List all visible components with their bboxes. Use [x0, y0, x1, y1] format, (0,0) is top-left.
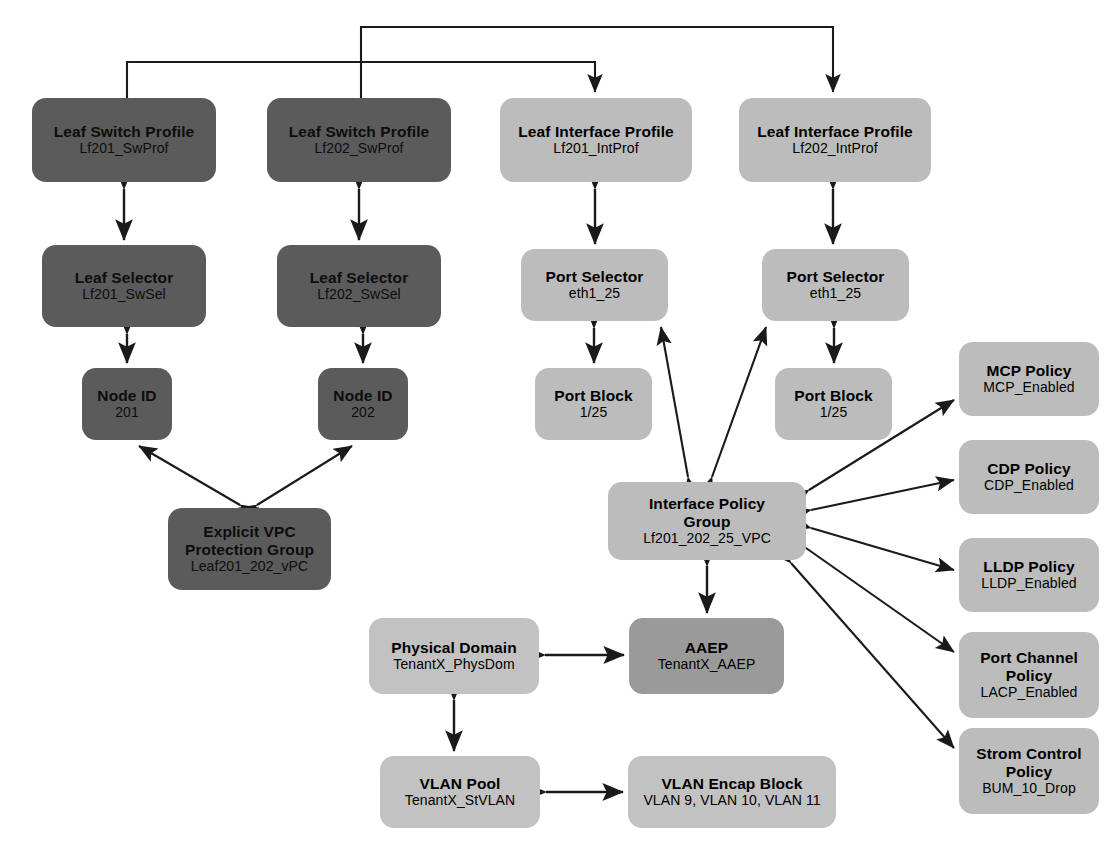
node-subtitle: Lf201_SwProf	[79, 141, 168, 157]
node-cdp_policy[interactable]: CDP PolicyCDP_Enabled	[959, 440, 1099, 514]
node-title: Node ID	[333, 387, 392, 404]
node-subtitle: CDP_Enabled	[984, 478, 1074, 494]
diagram-canvas: Leaf Switch ProfileLf201_SwProfLeaf Swit…	[0, 0, 1119, 856]
node-subtitle: TenantX_PhysDom	[393, 657, 514, 673]
node-subtitle: Lf201_IntProf	[553, 141, 638, 157]
node-subtitle: 1/25	[820, 405, 848, 421]
node-title: LLDP Policy	[983, 558, 1074, 575]
node-subtitle: BUM_10_Drop	[982, 781, 1076, 797]
node-subtitle: 202	[351, 405, 375, 421]
node-subtitle: 201	[115, 405, 139, 421]
node-subtitle: Lf202_IntProf	[792, 141, 877, 157]
node-title: MCP Policy	[986, 362, 1071, 379]
node-lf201_swprof[interactable]: Leaf Switch ProfileLf201_SwProf	[32, 98, 216, 182]
node-port_sel_2[interactable]: Port Selectoreth1_25	[762, 249, 909, 321]
node-subtitle: LACP_Enabled	[981, 685, 1078, 701]
node-title: Leaf Interface Profile	[518, 123, 674, 140]
node-title: VLAN Pool	[420, 775, 501, 792]
node-port_sel_1[interactable]: Port Selectoreth1_25	[521, 249, 668, 321]
node-title: AAEP	[685, 639, 728, 656]
node-node_id_201[interactable]: Node ID201	[82, 368, 172, 440]
node-port_block_1[interactable]: Port Block1/25	[535, 368, 652, 440]
node-subtitle: TenantX_AAEP	[658, 657, 756, 673]
node-lldp_policy[interactable]: LLDP PolicyLLDP_Enabled	[959, 538, 1099, 612]
node-subtitle: Leaf201_202_vPC	[191, 559, 309, 575]
node-title: Leaf Switch Profile	[289, 123, 430, 140]
node-subtitle: Lf202_SwProf	[314, 141, 403, 157]
node-storm_policy[interactable]: Strom ControlPolicyBUM_10_Drop	[959, 728, 1099, 814]
node-title: Port Block	[554, 387, 633, 404]
node-title: Port Selector	[787, 268, 885, 285]
node-vlan_encap[interactable]: VLAN Encap BlockVLAN 9, VLAN 10, VLAN 11	[628, 756, 836, 828]
node-title: Explicit VPCProtection Group	[185, 523, 314, 558]
node-title: Interface PolicyGroup	[649, 495, 765, 530]
node-ipg[interactable]: Interface PolicyGroupLf201_202_25_VPC	[608, 482, 806, 560]
node-title: Node ID	[97, 387, 156, 404]
ipg-to-port-selectors	[661, 327, 766, 477]
node-lf202_swprof[interactable]: Leaf Switch ProfileLf202_SwProf	[267, 98, 451, 182]
node-port_block_2[interactable]: Port Block1/25	[775, 368, 892, 440]
node-title: Leaf Switch Profile	[54, 123, 195, 140]
node-title: Leaf Selector	[310, 269, 409, 286]
node-lf202_intprof[interactable]: Leaf Interface ProfileLf202_IntProf	[739, 98, 931, 182]
node-pc_policy[interactable]: Port ChannelPolicyLACP_Enabled	[959, 632, 1099, 718]
node-lf201_swsel[interactable]: Leaf SelectorLf201_SwSel	[42, 245, 206, 327]
node-subtitle: MCP_Enabled	[983, 380, 1074, 396]
node-vpc_group[interactable]: Explicit VPCProtection GroupLeaf201_202_…	[168, 508, 331, 590]
node-node_id_202[interactable]: Node ID202	[318, 368, 408, 440]
node-title: Port Selector	[546, 268, 644, 285]
node-vlan_pool[interactable]: VLAN PoolTenantX_StVLAN	[380, 756, 540, 828]
node-phys_dom[interactable]: Physical DomainTenantX_PhysDom	[369, 618, 539, 694]
node-subtitle: TenantX_StVLAN	[405, 793, 515, 809]
node-title: Port ChannelPolicy	[980, 649, 1078, 684]
node-title: Physical Domain	[391, 639, 517, 656]
node-subtitle: Lf201_SwSel	[82, 287, 166, 303]
node-subtitle: Lf201_202_25_VPC	[643, 531, 771, 547]
node-subtitle: eth1_25	[569, 286, 620, 302]
horizontal-links	[545, 655, 624, 792]
node-subtitle: Lf202_SwSel	[317, 287, 401, 303]
vpc-links	[139, 446, 352, 505]
node-subtitle: LLDP_Enabled	[981, 576, 1076, 592]
node-lf201_intprof[interactable]: Leaf Interface ProfileLf201_IntProf	[500, 98, 692, 182]
node-subtitle: eth1_25	[810, 286, 861, 302]
node-title: Leaf Selector	[75, 269, 174, 286]
node-title: VLAN Encap Block	[661, 775, 802, 792]
ipg-to-policies	[791, 400, 954, 748]
node-title: Leaf Interface Profile	[757, 123, 913, 140]
node-title: Port Block	[794, 387, 873, 404]
node-lf202_swsel[interactable]: Leaf SelectorLf202_SwSel	[277, 245, 441, 327]
node-title: CDP Policy	[987, 460, 1070, 477]
node-title: Strom ControlPolicy	[976, 745, 1082, 780]
node-subtitle: VLAN 9, VLAN 10, VLAN 11	[643, 793, 820, 809]
node-aaep[interactable]: AAEPTenantX_AAEP	[629, 618, 784, 694]
node-subtitle: 1/25	[580, 405, 608, 421]
node-mcp_policy[interactable]: MCP PolicyMCP_Enabled	[959, 342, 1099, 416]
